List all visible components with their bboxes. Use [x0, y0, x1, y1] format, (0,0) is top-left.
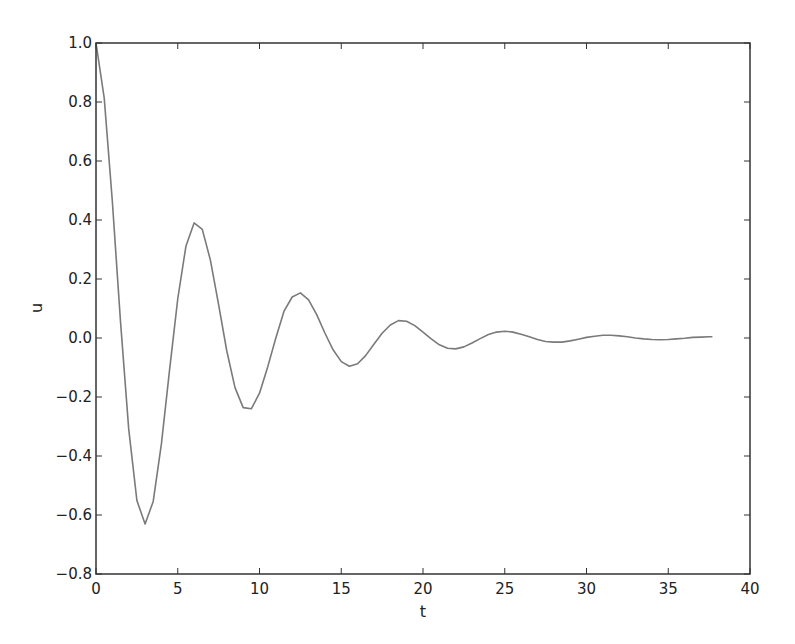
y-tick-label: 0.0 [68, 329, 92, 347]
x-tick-label: 20 [413, 580, 432, 598]
y-tick-label: −0.2 [56, 388, 92, 406]
line-chart: −0.8−0.6−0.4−0.20.00.20.40.60.81.0 05101… [0, 0, 795, 644]
x-axis-ticks: 0510152025303540 [91, 43, 759, 598]
x-tick-label: 25 [495, 580, 514, 598]
x-tick-label: 10 [250, 580, 269, 598]
x-tick-label: 5 [173, 580, 183, 598]
x-tick-label: 40 [740, 580, 759, 598]
y-tick-label: −0.8 [56, 565, 92, 583]
x-tick-label: 15 [332, 580, 351, 598]
plot-area-frame [96, 43, 750, 574]
x-tick-label: 0 [91, 580, 101, 598]
y-tick-label: −0.6 [56, 506, 92, 524]
x-tick-label: 30 [577, 580, 596, 598]
y-tick-label: 0.2 [68, 270, 92, 288]
y-axis-ticks: −0.8−0.6−0.4−0.20.00.20.40.60.81.0 [56, 34, 750, 583]
y-tick-label: 0.4 [68, 211, 92, 229]
y-tick-label: 0.8 [68, 93, 92, 111]
y-axis-label: u [27, 303, 46, 313]
y-tick-label: 0.6 [68, 152, 92, 170]
y-tick-label: 1.0 [68, 34, 92, 52]
x-axis-label: t [420, 602, 426, 621]
x-tick-label: 35 [659, 580, 678, 598]
data-line-u-vs-t [96, 43, 712, 524]
y-tick-label: −0.4 [56, 447, 92, 465]
